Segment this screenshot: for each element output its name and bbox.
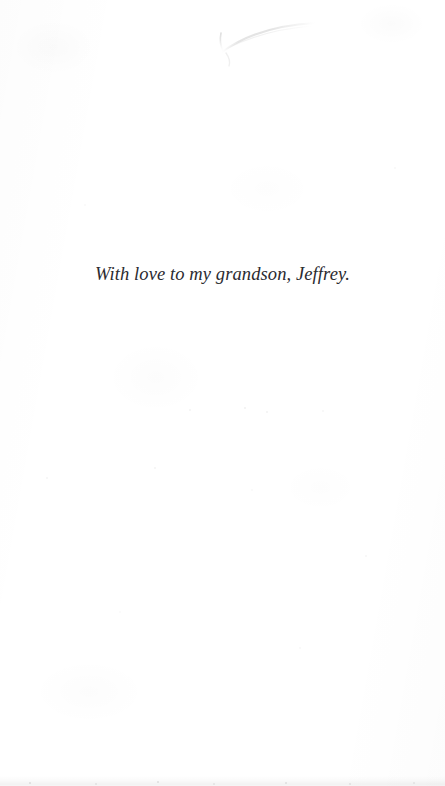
scan-edge-band (0, 776, 445, 786)
dedication-text: With love to my grandson, Jeffrey. (95, 262, 350, 287)
paper-grain (0, 0, 445, 786)
dedication-block: With love to my grandson, Jeffrey. (0, 262, 445, 287)
paper-specks (0, 0, 445, 786)
dedication-page: With love to my grandson, Jeffrey. (0, 0, 445, 786)
scan-curve-artifact (0, 0, 445, 90)
